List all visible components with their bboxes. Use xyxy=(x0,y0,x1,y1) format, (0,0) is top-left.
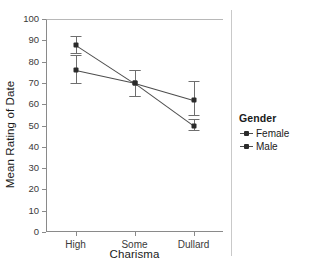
data-series-layer xyxy=(46,19,223,232)
data-point xyxy=(73,68,78,73)
x-tick-mark xyxy=(135,232,136,236)
legend-item[interactable]: Male xyxy=(239,140,315,153)
legend-title: Gender xyxy=(239,112,315,124)
legend-label: Male xyxy=(254,141,278,152)
error-bar-cap xyxy=(70,55,81,56)
y-tick-label: 0 xyxy=(34,226,39,237)
series-line-segment xyxy=(134,83,194,126)
legend-items: FemaleMale xyxy=(239,127,315,153)
y-tick-label: 30 xyxy=(28,162,39,173)
y-axis-title: Mean Rating of Date xyxy=(0,0,20,269)
x-tick-label: High xyxy=(65,239,86,250)
x-tick-mark xyxy=(194,232,195,236)
legend-marker-icon xyxy=(239,140,254,153)
y-tick-label: 80 xyxy=(28,56,39,67)
data-point xyxy=(191,97,196,102)
error-bar-cap xyxy=(70,53,81,54)
data-point xyxy=(191,123,196,128)
y-tick-label: 10 xyxy=(28,205,39,216)
series-line-segment xyxy=(75,45,135,84)
error-bar-cap xyxy=(129,70,140,71)
legend-label: Female xyxy=(254,128,289,139)
error-bar-cap xyxy=(188,130,199,131)
data-point xyxy=(73,42,78,47)
x-tick-label: Some xyxy=(121,239,147,250)
x-tick-mark xyxy=(76,232,77,236)
y-tick-label: 100 xyxy=(23,13,39,24)
legend-marker-icon xyxy=(239,127,254,140)
y-tick-label: 40 xyxy=(28,141,39,152)
legend-divider xyxy=(231,10,232,256)
data-point xyxy=(132,80,137,85)
y-tick-label: 90 xyxy=(28,34,39,45)
y-tick-mark xyxy=(42,232,46,233)
error-bar-cap xyxy=(70,36,81,37)
error-bar-cap xyxy=(188,115,199,116)
error-bar-cap xyxy=(70,83,81,84)
y-tick-label: 20 xyxy=(28,183,39,194)
y-tick-label: 60 xyxy=(28,98,39,109)
error-bar-cap xyxy=(129,96,140,97)
error-bar-cap xyxy=(188,81,199,82)
legend: Gender FemaleMale xyxy=(239,112,315,153)
legend-dot-icon xyxy=(244,131,249,136)
error-bar-cap xyxy=(188,119,199,120)
chart-figure: Mean Rating of Date Charisma 01020304050… xyxy=(0,0,317,269)
x-tick-label: Dullard xyxy=(178,239,210,250)
legend-dot-icon xyxy=(244,144,249,149)
series-line-segment xyxy=(134,83,193,101)
y-tick-label: 50 xyxy=(28,120,39,131)
legend-item[interactable]: Female xyxy=(239,127,315,140)
y-tick-label: 70 xyxy=(28,77,39,88)
